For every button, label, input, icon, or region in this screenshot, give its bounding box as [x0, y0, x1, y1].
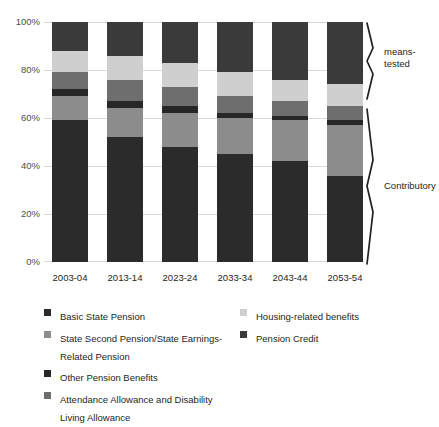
x-tick-label-2023-24: 2023-24 — [150, 272, 210, 283]
y-axis: 100% 80% 60% 40% 20% 0% — [0, 0, 40, 264]
legend-column-left: Basic State PensionState Second Pension/… — [44, 306, 240, 427]
legend-item-label: Housing-related benefits — [256, 311, 359, 322]
gridline-0 — [44, 261, 356, 262]
bar-segment — [52, 51, 88, 73]
bar-2053-54 — [327, 22, 363, 262]
y-tick-label-80: 80% — [2, 65, 40, 75]
bar-segment — [162, 106, 198, 113]
x-tick-label-2053-54: 2053-54 — [315, 272, 375, 283]
bar-segment — [52, 22, 88, 51]
bar-segment — [327, 22, 363, 84]
bar-segment — [217, 22, 253, 72]
bar-2043-44 — [272, 22, 308, 262]
y-tick-label-20: 20% — [2, 209, 40, 219]
legend-column-right: Housing-related benefitsPension Credit — [240, 306, 436, 349]
gridline-20 — [44, 214, 356, 215]
bar-segment — [217, 96, 253, 113]
legend-swatch-icon — [44, 331, 51, 338]
y-tick-label-40: 40% — [2, 161, 40, 171]
legend-swatch-icon — [44, 309, 51, 316]
legend-item[interactable]: State Second Pension/State Earnings-Rela… — [44, 328, 240, 364]
y-tick-label-60: 60% — [2, 113, 40, 123]
bar-segment — [107, 108, 143, 137]
bar-segment — [107, 137, 143, 262]
bar-2003-04 — [52, 22, 88, 262]
bar-segment — [272, 120, 308, 161]
means-tested-label-line1: means- — [384, 46, 416, 57]
bar-segment — [217, 118, 253, 154]
legend-item[interactable]: Basic State Pension — [44, 306, 240, 324]
legend-item-label: State Second Pension/State Earnings-Rela… — [60, 333, 222, 362]
contributory-bracket — [364, 108, 380, 265]
bar-segment — [327, 125, 363, 175]
bar-segment — [162, 87, 198, 106]
bar-segment — [162, 22, 198, 63]
legend-swatch-icon — [240, 309, 247, 316]
plot-area — [44, 22, 356, 262]
legend-swatch-icon — [240, 331, 247, 338]
bar-segment — [107, 22, 143, 56]
legend-item[interactable]: Pension Credit — [240, 328, 436, 346]
means-tested-bracket — [364, 22, 380, 100]
bar-segment — [217, 72, 253, 96]
y-tick-label-0: 0% — [2, 257, 40, 267]
bar-segment — [272, 101, 308, 115]
legend-item[interactable]: Other Pension Benefits — [44, 367, 240, 385]
bar-segment — [272, 161, 308, 262]
bar-segment — [327, 106, 363, 120]
bar-segment — [272, 22, 308, 80]
bar-segment — [52, 89, 88, 96]
x-tick-label-2033-34: 2033-34 — [205, 272, 265, 283]
means-tested-label: means- tested — [384, 46, 436, 69]
bar-2013-14 — [107, 22, 143, 262]
gridline-60 — [44, 118, 356, 119]
bar-2023-24 — [162, 22, 198, 262]
legend-item[interactable]: Attendance Allowance and Disability Livi… — [44, 389, 240, 425]
bar-segment — [107, 80, 143, 102]
bar-segment — [52, 96, 88, 120]
legend-item-label: Other Pension Benefits — [60, 372, 158, 383]
bar-segment — [107, 56, 143, 80]
gridline-100 — [44, 22, 356, 23]
gridline-80 — [44, 70, 356, 71]
bar-segment — [52, 72, 88, 89]
bar-segment — [107, 101, 143, 108]
legend-item-label: Pension Credit — [256, 333, 318, 344]
bar-segment — [52, 120, 88, 262]
legend-item-label: Basic State Pension — [60, 311, 145, 322]
bar-segment — [327, 176, 363, 262]
bar-segment — [217, 154, 253, 262]
bar-segment — [162, 113, 198, 147]
bar-segment — [327, 84, 363, 106]
x-tick-label-2003-04: 2003-04 — [40, 272, 100, 283]
gridline-40 — [44, 166, 356, 167]
contributory-label: Contributory — [384, 180, 438, 192]
legend-swatch-icon — [44, 370, 51, 377]
means-tested-label-line2: tested — [384, 58, 410, 69]
legend-item[interactable]: Housing-related benefits — [240, 306, 436, 324]
y-tick-label-100: 100% — [2, 17, 40, 27]
bar-2033-34 — [217, 22, 253, 262]
legend-swatch-icon — [44, 392, 51, 399]
bar-segment — [162, 63, 198, 87]
bar-segment — [162, 147, 198, 262]
legend-item-label: Attendance Allowance and Disability Livi… — [60, 394, 213, 423]
bar-segment — [272, 80, 308, 102]
x-tick-label-2013-14: 2013-14 — [95, 272, 155, 283]
x-tick-label-2043-44: 2043-44 — [260, 272, 320, 283]
